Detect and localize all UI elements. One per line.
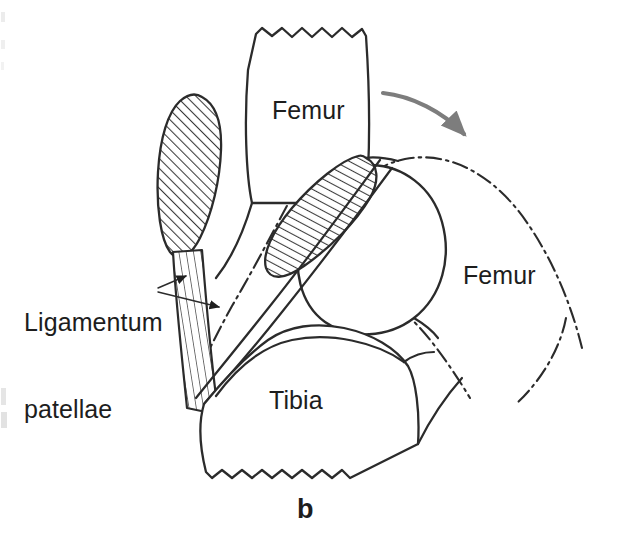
label-ligamentum-line1: Ligamentum bbox=[24, 308, 163, 337]
label-femur-proximal: Femur bbox=[272, 96, 345, 125]
label-ligamentum-line2: patellae bbox=[24, 395, 163, 424]
ligamentum-patellae-outline bbox=[173, 250, 217, 412]
ligamentum-patellae-band bbox=[173, 250, 217, 412]
femur-medial-border bbox=[216, 203, 252, 278]
rotated-femur-lateral-line bbox=[516, 318, 566, 404]
rotation-arrow-path bbox=[383, 93, 464, 134]
tibial-lateral-contour bbox=[404, 352, 434, 362]
tibia-lateral-border bbox=[418, 378, 462, 444]
label-ligamentum-patellae: Ligamentum patellae bbox=[24, 250, 163, 482]
patella-extended bbox=[158, 95, 222, 258]
scan-edge-artifacts bbox=[1, 12, 7, 428]
figure-root: Femur Femur Tibia Ligamentum patellae b bbox=[0, 0, 618, 549]
label-femur-rotated: Femur bbox=[463, 261, 536, 290]
figure-caption: b bbox=[297, 494, 314, 525]
label-tibia: Tibia bbox=[269, 386, 323, 415]
patella-extended-outline bbox=[158, 95, 222, 258]
rotation-arrow bbox=[383, 93, 464, 134]
